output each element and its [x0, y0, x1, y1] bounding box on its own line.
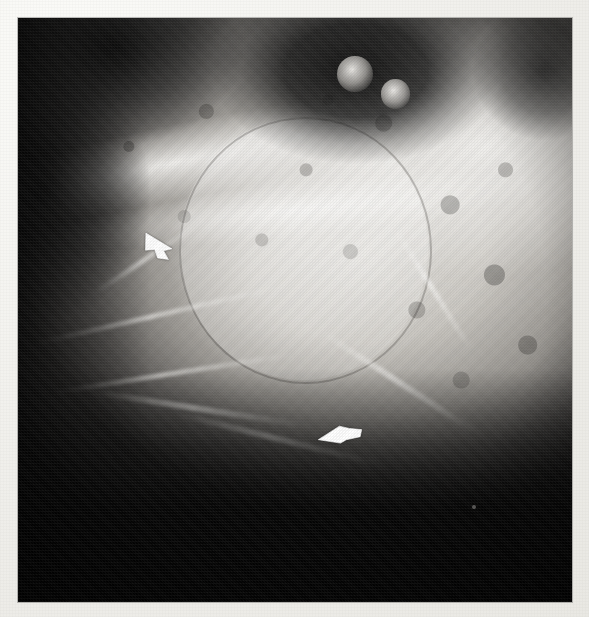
figure-page [0, 0, 589, 617]
dark-bottom-band [18, 18, 572, 602]
film-speck [472, 505, 476, 509]
radiograph-image [18, 18, 572, 602]
